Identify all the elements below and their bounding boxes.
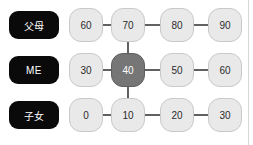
generation-grid-diagram: 父母 ME 子女 60708090304050600102030 (0, 0, 253, 145)
node-value: 40 (122, 65, 133, 76)
node[interactable]: 20 (160, 98, 194, 132)
node[interactable]: 60 (69, 8, 103, 42)
node-grid: 60708090304050600102030 (0, 0, 253, 145)
node-value: 80 (171, 20, 182, 31)
node[interactable]: 50 (160, 53, 194, 87)
node[interactable]: 30 (208, 98, 242, 132)
node[interactable]: 70 (111, 8, 145, 42)
node[interactable]: 90 (208, 8, 242, 42)
node-selected[interactable]: 40 (111, 53, 145, 87)
node-value: 0 (83, 110, 89, 121)
node[interactable]: 60 (208, 53, 242, 87)
node[interactable]: 10 (111, 98, 145, 132)
node-value: 60 (80, 20, 91, 31)
node-value: 20 (171, 110, 182, 121)
node-value: 50 (171, 65, 182, 76)
node-value: 60 (219, 65, 230, 76)
node-value: 30 (219, 110, 230, 121)
node[interactable]: 30 (69, 53, 103, 87)
node-value: 70 (122, 20, 133, 31)
right-divider (248, 0, 249, 145)
node[interactable]: 0 (69, 98, 103, 132)
node-value: 10 (122, 110, 133, 121)
node-value: 30 (80, 65, 91, 76)
node[interactable]: 80 (160, 8, 194, 42)
node-value: 90 (219, 20, 230, 31)
